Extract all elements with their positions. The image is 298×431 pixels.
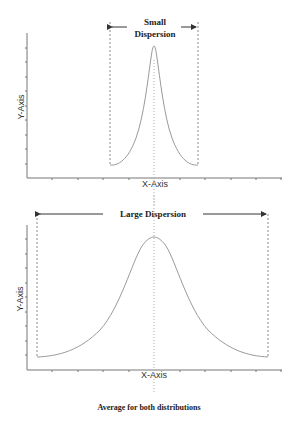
small-dispersion-label-line2: Dispersion bbox=[134, 29, 175, 39]
dispersion-figure: Small Dispersion X-Axis Y-Axis bbox=[0, 0, 298, 431]
x-axis-label: X-Axis bbox=[141, 370, 168, 380]
figure-caption: Average for both distributions bbox=[97, 403, 200, 412]
y-axis-label: Y-Axis bbox=[15, 286, 25, 312]
large-dispersion-chart: Large Dispersion X-Axis Y-Axis bbox=[15, 196, 282, 393]
large-dispersion-label: Large Dispersion bbox=[120, 209, 186, 219]
small-dispersion-chart: Small Dispersion X-Axis Y-Axis bbox=[16, 17, 282, 205]
x-axis-label: X-Axis bbox=[142, 179, 169, 189]
small-dispersion-label-line1: Small bbox=[144, 17, 167, 27]
large-dispersion-curve bbox=[37, 237, 268, 357]
y-axis-label: Y-Axis bbox=[16, 94, 26, 120]
